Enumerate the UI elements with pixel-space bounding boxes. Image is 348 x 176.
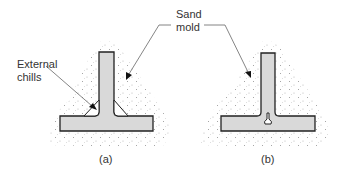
label-sand: Sand xyxy=(176,8,202,21)
caption-b: (b) xyxy=(261,153,274,166)
label-chills: chills xyxy=(17,71,57,84)
label-mold: mold xyxy=(176,21,202,34)
diagram-canvas xyxy=(0,0,348,176)
label-external-chills: External chills xyxy=(17,58,57,84)
caption-a: (a) xyxy=(99,153,112,166)
label-sand-mold: Sand mold xyxy=(176,8,202,34)
label-external: External xyxy=(17,58,57,71)
